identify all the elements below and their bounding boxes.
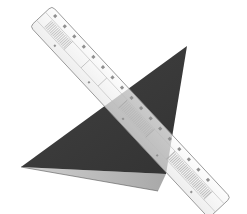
photo-canvas [0, 0, 247, 214]
